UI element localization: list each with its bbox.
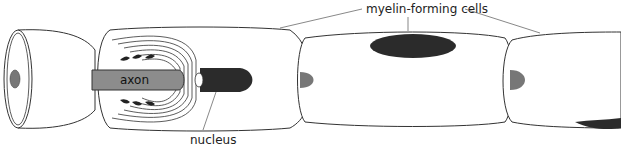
svg-text:nucleus: nucleus [190, 133, 236, 147]
svg-text:myelin-forming cells: myelin-forming cells [366, 2, 488, 16]
label-myelin-forming-cells: myelin-forming cells [280, 2, 540, 33]
nucleus-shape [200, 68, 252, 92]
cut-end-cell [4, 30, 95, 129]
myelinated-axon-diagram: axon myelin-forming cells nucleus [0, 0, 621, 147]
myelin-cell-middle [298, 32, 513, 127]
axon-cross-section [10, 70, 20, 88]
axon: axon [92, 70, 184, 90]
nucleus-middle-cell [370, 34, 456, 58]
myelin-cell-right [503, 32, 621, 129]
axon-label: axon [120, 73, 149, 87]
